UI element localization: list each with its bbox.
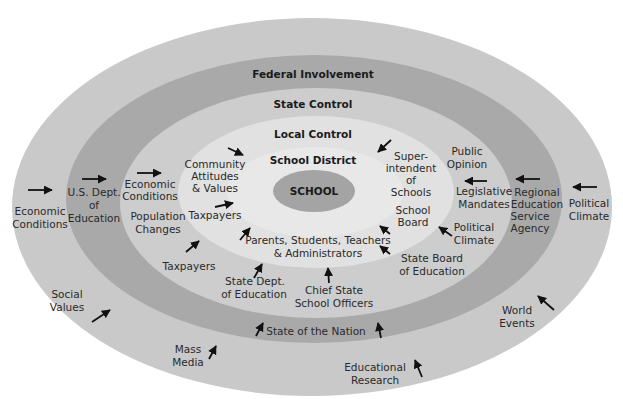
svg-text:World: World xyxy=(502,304,532,316)
label-social-values: Social Values xyxy=(50,288,84,313)
ring-title-school: SCHOOL xyxy=(290,185,339,197)
label-public-opinion: Public Opinion xyxy=(447,145,488,170)
svg-text:Service: Service xyxy=(511,210,550,222)
svg-text:State Board: State Board xyxy=(401,252,463,264)
svg-text:Changes: Changes xyxy=(135,223,181,235)
label-mass-media: Mass Media xyxy=(172,343,204,368)
svg-text:Opinion: Opinion xyxy=(447,158,488,170)
svg-text:Educational: Educational xyxy=(344,361,406,373)
svg-text:Education: Education xyxy=(511,198,563,210)
ring-title-local: Local Control xyxy=(274,128,352,140)
ring-title-district: School District xyxy=(270,154,357,166)
svg-text:Conditions: Conditions xyxy=(122,190,178,202)
svg-text:Mandates: Mandates xyxy=(458,198,509,210)
label-chief-state-officers: Chief State School Officers xyxy=(295,284,374,309)
svg-text:Political: Political xyxy=(569,197,609,209)
label-educational-research: Educational Research xyxy=(344,361,406,386)
svg-text:& Administrators: & Administrators xyxy=(274,247,363,259)
ring-title-state: State Control xyxy=(274,98,353,110)
svg-text:of: of xyxy=(89,199,99,211)
ring-title-federal: Federal Involvement xyxy=(252,68,374,80)
svg-text:Education: Education xyxy=(68,212,120,224)
label-state-political-climate: Political Climate xyxy=(454,221,494,246)
label-state-of-nation: State of the Nation xyxy=(266,325,366,337)
svg-text:& Values: & Values xyxy=(192,182,238,194)
svg-text:Economic: Economic xyxy=(15,205,66,217)
education-influences-diagram: Federal Involvement State Control Local … xyxy=(0,0,623,399)
svg-text:Chief State: Chief State xyxy=(305,284,363,296)
svg-text:Attitudes: Attitudes xyxy=(191,170,239,182)
svg-text:intendent: intendent xyxy=(386,162,437,174)
svg-text:Research: Research xyxy=(351,374,399,386)
svg-text:of: of xyxy=(406,174,416,186)
svg-text:of Education: of Education xyxy=(399,265,465,277)
svg-text:Schools: Schools xyxy=(391,186,431,198)
svg-text:Mass: Mass xyxy=(175,343,201,355)
svg-text:Legislative: Legislative xyxy=(456,185,512,197)
svg-text:Community: Community xyxy=(185,158,246,170)
svg-text:Climate: Climate xyxy=(569,210,609,222)
label-state-board-education: State Board of Education xyxy=(399,252,465,277)
svg-text:Events: Events xyxy=(499,317,535,329)
label-outer-political-climate: Political Climate xyxy=(569,197,609,222)
label-state-dept-education: State Dept. of Education xyxy=(221,275,287,300)
label-world-events: World Events xyxy=(499,304,535,329)
svg-text:Values: Values xyxy=(50,301,84,313)
label-local-taxpayers: Taxpayers xyxy=(188,209,242,221)
svg-text:U.S. Dept.: U.S. Dept. xyxy=(67,186,120,198)
svg-text:Climate: Climate xyxy=(454,234,494,246)
label-population-changes: Population Changes xyxy=(130,210,185,235)
label-state-economic-conditions: Economic Conditions xyxy=(122,178,178,202)
label-community-attitudes: Community Attitudes & Values xyxy=(185,158,246,194)
svg-text:Political: Political xyxy=(454,221,494,233)
arrow-icon xyxy=(328,268,329,283)
svg-text:Population: Population xyxy=(130,210,185,222)
svg-text:Parents, Students, Teachers: Parents, Students, Teachers xyxy=(245,234,390,246)
svg-text:Super-: Super- xyxy=(394,150,428,162)
svg-text:School: School xyxy=(396,204,431,216)
svg-text:Board: Board xyxy=(398,216,429,228)
label-state-taxpayers: Taxpayers xyxy=(162,260,216,272)
svg-text:Public: Public xyxy=(451,145,482,157)
svg-text:Agency: Agency xyxy=(511,222,550,234)
label-legislative-mandates: Legislative Mandates xyxy=(456,185,512,210)
svg-text:Social: Social xyxy=(51,288,82,300)
svg-text:Media: Media xyxy=(172,356,204,368)
svg-text:Regional: Regional xyxy=(514,186,559,198)
label-outer-economic-conditions: Economic Conditions xyxy=(12,205,68,230)
svg-text:School Officers: School Officers xyxy=(295,297,374,309)
label-school-board: School Board xyxy=(396,204,431,228)
svg-text:Conditions: Conditions xyxy=(12,218,68,230)
svg-text:of Education: of Education xyxy=(221,288,287,300)
svg-text:Economic: Economic xyxy=(125,178,176,190)
